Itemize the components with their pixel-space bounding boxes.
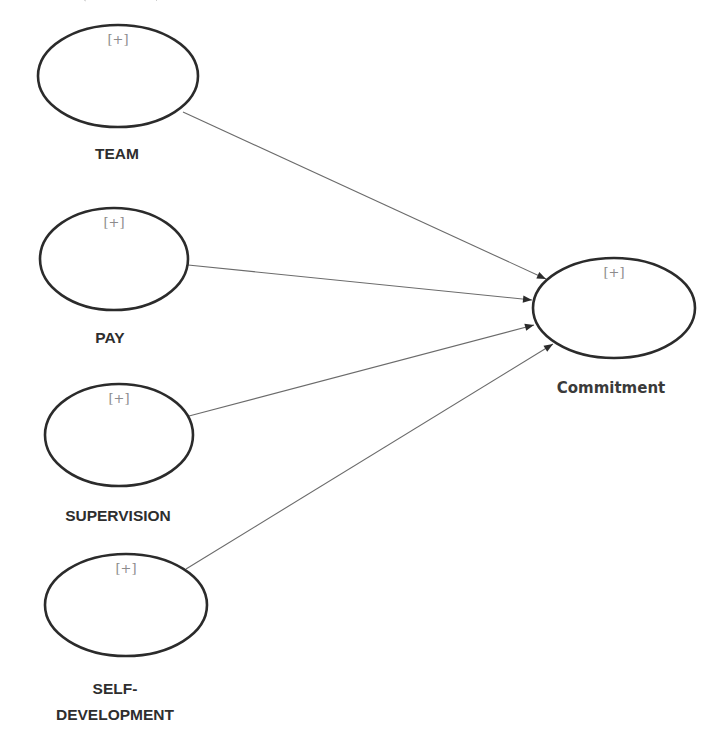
node-label: SUPERVISION [65, 507, 171, 524]
nodes: [+]TEAM[+]PAY[+]SUPERVISION[+]SELF-DEVEL… [38, 25, 695, 723]
expand-indicators-icon[interactable]: [+] [108, 391, 129, 406]
expand-indicators-icon[interactable]: [+] [103, 215, 124, 230]
node-label: TEAM [95, 145, 139, 162]
arrowhead-icon [536, 272, 546, 279]
arrowhead-icon [523, 296, 532, 303]
node-pay[interactable]: [+]PAY [40, 208, 188, 346]
arrowhead-icon [524, 324, 534, 331]
node-label: DEVELOPMENT [56, 706, 175, 723]
expand-indicators-icon[interactable]: [+] [115, 561, 136, 576]
top-crop-residue [84, 0, 157, 1]
node-self-development[interactable]: [+]SELF-DEVELOPMENT [45, 554, 207, 723]
expand-indicators-icon[interactable]: [+] [107, 32, 128, 47]
expand-indicators-icon[interactable]: [+] [603, 265, 624, 280]
path-line[interactable] [183, 112, 546, 279]
node-label: PAY [95, 329, 125, 346]
edge-team-to-commitment[interactable] [183, 112, 546, 279]
node-label: Commitment [557, 379, 666, 397]
path-line[interactable] [189, 325, 534, 416]
node-supervision[interactable]: [+]SUPERVISION [45, 384, 193, 524]
arrowhead-icon [543, 344, 553, 352]
edge-self-development-to-commitment[interactable] [186, 344, 553, 569]
path-line[interactable] [188, 265, 532, 300]
edge-supervision-to-commitment[interactable] [189, 324, 534, 416]
node-label: SELF- [93, 680, 138, 697]
node-team[interactable]: [+]TEAM [38, 25, 198, 162]
edge-pay-to-commitment[interactable] [188, 265, 532, 303]
edges [183, 112, 553, 569]
path-line[interactable] [186, 344, 553, 569]
node-commitment[interactable]: [+]Commitment [533, 258, 695, 397]
path-diagram: [+]TEAM[+]PAY[+]SUPERVISION[+]SELF-DEVEL… [0, 0, 727, 752]
